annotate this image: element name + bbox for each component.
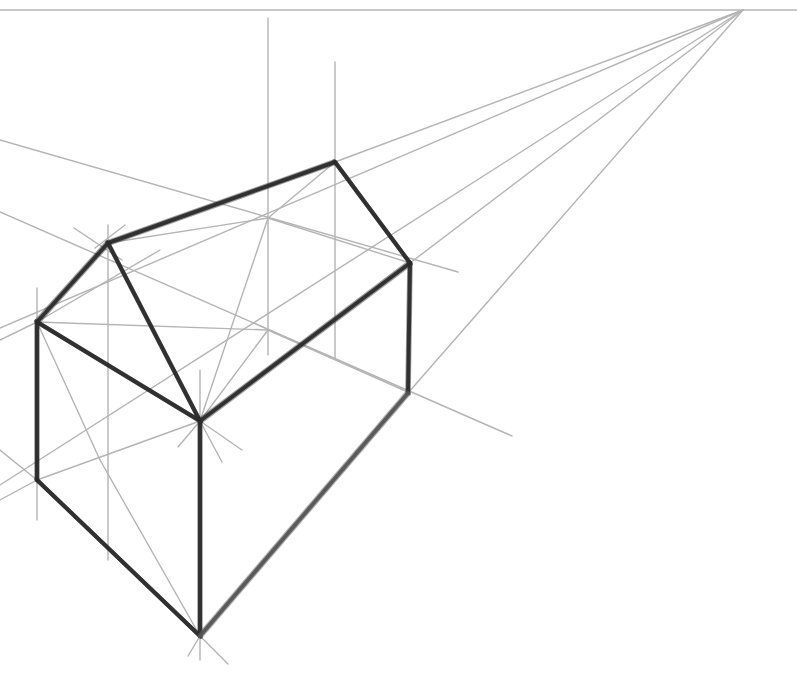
guide-line [268, 218, 410, 263]
edge-ridge [107, 161, 334, 242]
guide-line [408, 10, 743, 393]
guide-line [335, 10, 743, 162]
construction-guide-lines [0, 10, 797, 664]
guide-line [0, 480, 37, 500]
edge-side-eave [201, 264, 411, 422]
edge-side-eave [199, 262, 409, 420]
guide-line [188, 636, 200, 656]
edge-ridge [109, 163, 336, 244]
perspective-house-drawing [0, 0, 797, 684]
guide-line [200, 421, 242, 450]
edge-side-base [201, 394, 409, 637]
edge-front-gable-left [38, 244, 109, 323]
guide-line [200, 636, 228, 664]
guide-line [0, 10, 743, 328]
edge-back-right-wall [407, 262, 409, 392]
guide-line [200, 421, 222, 462]
guide-line [268, 162, 335, 218]
edge-side-base [199, 392, 407, 635]
guide-line [410, 10, 743, 263]
guide-line [108, 218, 268, 243]
guide-line [268, 330, 410, 393]
guide-line [100, 460, 200, 636]
guide-line [0, 322, 37, 340]
edge-front-base [36, 479, 199, 635]
edge-front-gable-left [36, 242, 107, 321]
guide-line [37, 421, 200, 480]
guide-line [0, 140, 458, 272]
